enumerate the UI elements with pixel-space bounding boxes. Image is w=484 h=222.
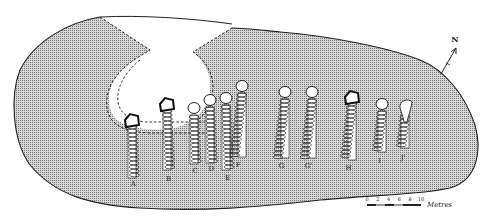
grave-label: C — [193, 167, 198, 175]
grave-head-outline — [125, 114, 139, 127]
north-arrow: N — [441, 34, 459, 74]
grave-head-outline — [220, 93, 232, 104]
scale-unit-label: Metres — [426, 201, 453, 209]
scale-tick-label: 0 — [365, 196, 368, 202]
site-plan: ABCDEFGG'HIJ' N 0246810 Metres — [0, 0, 484, 222]
grave-label: F — [236, 161, 241, 169]
grave-head-outline — [345, 91, 359, 104]
scale-tick-label: 10 — [418, 196, 424, 202]
scale-tick-labels: 0246810 — [365, 196, 424, 202]
north-label: N — [451, 34, 458, 44]
grave-head-outline — [204, 95, 216, 106]
grave-head-outline — [236, 81, 248, 92]
north-arrow-shaft — [441, 48, 456, 74]
grave-label: E — [225, 174, 230, 182]
grave-label: B — [166, 175, 171, 183]
scale-tick-label: 8 — [409, 196, 412, 202]
scale-bar: 0246810 Metres — [365, 196, 452, 209]
grave-head-outline — [279, 87, 291, 98]
grave-label: D — [209, 165, 215, 173]
grave-label: A — [130, 180, 137, 188]
grave-head-outline — [376, 99, 388, 110]
grave-label: G — [279, 162, 285, 170]
grave-head-outline — [160, 98, 174, 111]
scale-tick-label: 4 — [387, 196, 390, 202]
grave-label: I — [378, 157, 381, 165]
scale-tick-label: 6 — [398, 196, 401, 202]
grave-head-outline — [306, 87, 318, 98]
top-edge-line — [100, 16, 232, 24]
grave-label: G' — [305, 162, 313, 170]
grave-label: H — [345, 164, 351, 172]
scale-tick-label: 2 — [376, 196, 379, 202]
grave-head-outline — [188, 103, 200, 114]
grave-label: J' — [400, 154, 406, 162]
